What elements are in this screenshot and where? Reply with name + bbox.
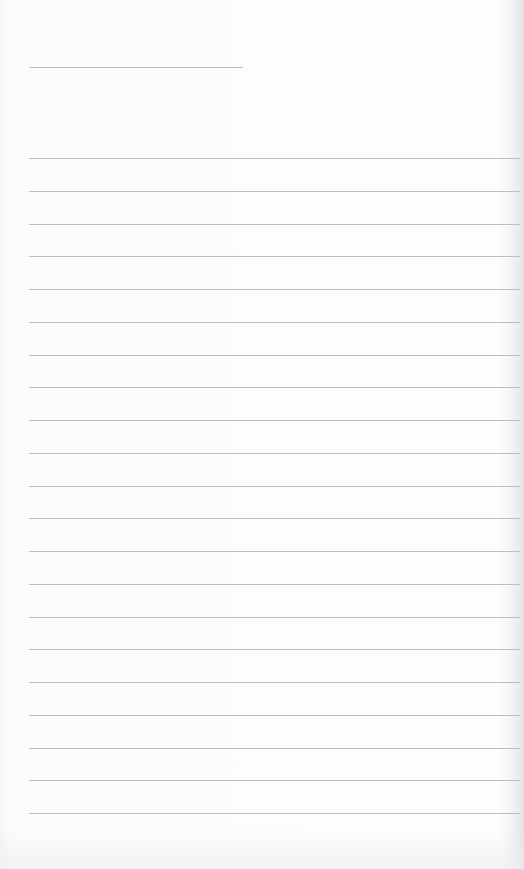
ruled-line bbox=[29, 289, 520, 290]
ruled-line bbox=[29, 224, 520, 225]
title-line bbox=[30, 67, 243, 68]
ruled-line bbox=[29, 486, 520, 487]
ruled-line bbox=[29, 158, 520, 159]
ruled-line bbox=[29, 584, 520, 585]
ruled-line bbox=[29, 256, 520, 257]
ruled-line bbox=[29, 682, 520, 683]
ruled-line bbox=[29, 617, 520, 618]
lined-paper bbox=[0, 0, 524, 869]
ruled-line bbox=[29, 322, 520, 323]
ruled-line bbox=[29, 715, 520, 716]
ruled-line bbox=[29, 191, 520, 192]
ruled-line bbox=[29, 453, 520, 454]
ruled-line bbox=[29, 387, 520, 388]
ruled-line bbox=[29, 813, 520, 814]
ruled-line bbox=[29, 748, 520, 749]
ruled-line bbox=[29, 355, 520, 356]
ruled-line bbox=[29, 551, 520, 552]
ruled-line bbox=[29, 420, 520, 421]
ruled-line bbox=[29, 518, 520, 519]
ruled-line bbox=[29, 780, 520, 781]
ruled-line bbox=[29, 649, 520, 650]
